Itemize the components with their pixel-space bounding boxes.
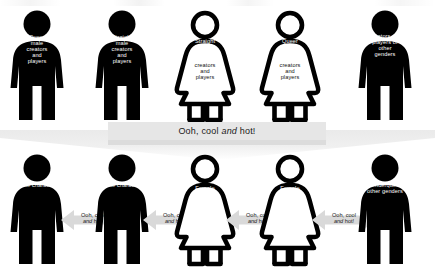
- female-figure-outline-icon: [162, 8, 248, 126]
- banner-caption-after: hot!: [237, 126, 256, 136]
- figure-straight-female-creators: Straight female creators and players: [162, 8, 248, 126]
- figure-queer-female-creators: Queer female creators and players: [247, 8, 333, 126]
- figure-other-gender-creators: Creators and players of other genders: [342, 8, 428, 126]
- top-edge-artifact: [0, 0, 435, 6]
- female-figure-outline-icon: [247, 8, 333, 126]
- male-figure-filled-icon: [342, 152, 428, 270]
- diagram-canvas: Queer male creators and players Straight…: [0, 0, 435, 278]
- male-figure-filled-icon: [79, 8, 165, 126]
- figure-straight-male-creators: Straight male creators and players: [79, 8, 165, 126]
- figure-genderqueer-character: Genderqueer, other genders: [342, 152, 428, 270]
- banner-platform-shadow: [108, 140, 326, 145]
- banner-caption-before: Ooh, cool: [178, 126, 221, 136]
- banner-caption-italic: and: [221, 126, 237, 136]
- banner-caption: Ooh, cool and hot!: [108, 126, 326, 136]
- male-figure-filled-icon: [342, 8, 428, 126]
- figure-queer-male-creators: Queer male creators and players: [0, 8, 80, 126]
- male-figure-filled-icon: [0, 8, 80, 126]
